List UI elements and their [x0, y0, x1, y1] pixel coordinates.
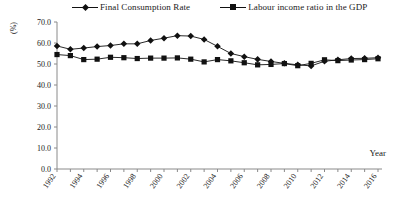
data-point-marker — [108, 55, 113, 60]
data-point-marker — [228, 58, 233, 63]
data-point-marker — [68, 53, 73, 58]
x-tick: 2006 — [228, 172, 245, 190]
x-tick: 2012 — [309, 172, 326, 190]
data-point-marker — [242, 60, 247, 65]
data-point-marker — [282, 61, 287, 66]
y-tick-label: 40.0 — [37, 81, 51, 90]
data-point-marker — [94, 43, 101, 50]
data-point-marker — [295, 63, 300, 68]
x-tick-label: 2010 — [282, 172, 299, 190]
data-point-marker — [148, 56, 153, 61]
data-point-marker — [161, 56, 166, 61]
y-tick-label: 20.0 — [37, 123, 51, 132]
x-tick: 2002 — [175, 172, 192, 190]
data-point-marker — [135, 56, 140, 61]
data-point-marker — [228, 50, 235, 57]
x-tick-label: 2012 — [309, 172, 326, 190]
x-tick-label: 2014 — [335, 172, 352, 190]
y-tick-label: 60.0 — [37, 39, 51, 48]
x-tick: 2008 — [255, 172, 272, 190]
data-point-marker — [362, 57, 367, 62]
data-point-marker — [215, 57, 220, 62]
y-tick-label: 70.0 — [37, 18, 51, 27]
data-point-marker — [54, 43, 61, 50]
x-tick-label: 1992 — [41, 172, 58, 190]
data-point-marker — [67, 46, 74, 53]
x-tick: 1998 — [121, 172, 138, 190]
x-tick-label: 1998 — [121, 172, 138, 190]
data-point-marker — [187, 33, 194, 40]
data-point-marker — [161, 35, 168, 42]
data-point-marker — [95, 57, 100, 62]
data-point-marker — [175, 55, 180, 60]
x-tick-label: 2008 — [255, 172, 272, 190]
data-point-marker — [309, 61, 314, 66]
y-tick-label: 50.0 — [37, 60, 51, 69]
data-point-marker — [80, 45, 87, 52]
plot-svg: 0.010.020.030.040.050.060.070.0199219941… — [0, 0, 404, 214]
line-chart: Final Consumption Rate Labour income rat… — [0, 0, 404, 214]
x-tick-label: 1994 — [68, 172, 85, 190]
data-point-marker — [375, 56, 380, 61]
data-point-marker — [81, 57, 86, 62]
plot-area: 0.010.020.030.040.050.060.070.0199219941… — [0, 0, 404, 214]
data-point-marker — [241, 53, 248, 60]
x-tick: 2014 — [335, 172, 352, 190]
x-tick-label: 1996 — [95, 172, 112, 190]
data-point-marker — [254, 56, 261, 63]
y-tick-label: 30.0 — [37, 102, 51, 111]
x-tick-label: 2000 — [148, 172, 165, 190]
x-tick: 1996 — [95, 172, 112, 190]
x-tick-label: 2016 — [362, 172, 379, 190]
data-point-marker — [214, 43, 221, 50]
y-tick-label: 10.0 — [37, 144, 51, 153]
data-point-marker — [268, 62, 273, 67]
data-point-marker — [349, 57, 354, 62]
data-point-marker — [174, 32, 181, 39]
data-point-marker — [121, 41, 128, 48]
data-point-marker — [121, 55, 126, 60]
x-tick: 1992 — [41, 172, 58, 190]
x-tick: 2010 — [282, 172, 299, 190]
data-point-marker — [255, 62, 260, 67]
data-point-marker — [201, 36, 208, 43]
data-point-marker — [54, 52, 59, 57]
x-tick-label: 2004 — [202, 172, 219, 190]
data-point-marker — [322, 57, 327, 62]
x-tick: 2000 — [148, 172, 165, 190]
x-tick: 1994 — [68, 172, 85, 190]
data-point-marker — [202, 59, 207, 64]
data-point-marker — [134, 41, 141, 48]
x-tick-label: 2006 — [228, 172, 245, 190]
x-tick-label: 2002 — [175, 172, 192, 190]
data-point-marker — [335, 58, 340, 63]
x-tick: 2004 — [202, 172, 219, 190]
data-point-marker — [147, 37, 154, 44]
x-tick: 2016 — [362, 172, 379, 190]
data-point-marker — [188, 57, 193, 62]
data-point-marker — [107, 42, 114, 49]
